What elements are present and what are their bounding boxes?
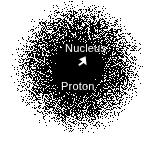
nucleus-pointer-arrow-icon — [74, 54, 90, 70]
electron-cloud-figure: Nucleus Proton — [0, 0, 156, 155]
electron-cloud-stipple — [0, 0, 156, 155]
